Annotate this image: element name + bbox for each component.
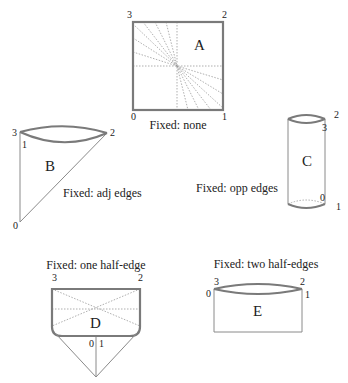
panel-c-vertex-1: 1 [336, 201, 341, 212]
panel-a-vertex-3: 3 [127, 9, 132, 20]
panel-e-letter: E [253, 303, 262, 319]
panel-a-vertex-2: 2 [222, 9, 227, 20]
panel-b-caption: Fixed: adj edges [63, 186, 142, 200]
panel-b: 3 1 2 0 B Fixed: adj edges [12, 126, 142, 231]
panel-c-letter: C [302, 153, 312, 169]
panel-e-vertex-3: 3 [214, 276, 219, 287]
panel-d-caption: Fixed: one half-edge [46, 258, 145, 272]
panel-e-vertex-0: 0 [206, 288, 211, 299]
panel-d-vertex-1: 1 [99, 338, 104, 349]
panel-a-fold-lines [133, 22, 223, 110]
panel-b-letter: B [45, 158, 55, 174]
panel-e: Fixed: two half-edges 3 2 0 1 E [206, 257, 319, 332]
diagram-canvas: 3 2 0 1 A Fixed: none 3 1 2 0 B Fixed: a… [0, 0, 348, 383]
panel-c-vertex-0: 0 [320, 192, 325, 203]
panel-b-vertex-2: 2 [110, 127, 115, 138]
panel-e-caption: Fixed: two half-edges [214, 257, 319, 271]
panel-c-vertex-2: 2 [334, 109, 339, 120]
panel-c-vertex-3: 3 [322, 122, 327, 133]
panel-c-caption: Fixed: opp edges [196, 181, 278, 195]
panel-d-vertex-0: 0 [89, 338, 94, 349]
panel-a-vertex-1: 1 [222, 111, 227, 122]
panel-d-vertex-2: 2 [138, 272, 143, 283]
panel-e-upper-edge [214, 284, 302, 289]
panel-a-letter: A [194, 37, 205, 53]
panel-b-vertex-3: 3 [12, 127, 17, 138]
panel-c: 2 3 0 1 C Fixed: opp edges [196, 109, 341, 212]
panel-a-caption: Fixed: none [150, 118, 207, 132]
panel-e-lower-edge [214, 289, 302, 294]
panel-b-upper-edge [20, 126, 107, 133]
panel-c-top-back-edge [288, 115, 325, 119]
panel-d-letter: D [90, 315, 101, 331]
panel-b-lower-edge [20, 132, 107, 142]
panel-a: 3 2 0 1 A Fixed: none [127, 9, 227, 132]
panel-a-vertex-0: 0 [131, 111, 136, 122]
panel-c-bottom-front-edge [288, 204, 325, 208]
panel-e-vertex-1: 1 [305, 289, 310, 300]
panel-e-vertex-2: 2 [300, 276, 305, 287]
panel-d-vertex-3: 3 [52, 272, 57, 283]
panel-d: Fixed: one half-edge 3 2 0 1 D [46, 258, 145, 377]
panel-c-top-front-edge [288, 119, 325, 123]
panel-b-vertex-1: 1 [22, 139, 27, 150]
panel-b-vertex-0: 0 [13, 220, 18, 231]
